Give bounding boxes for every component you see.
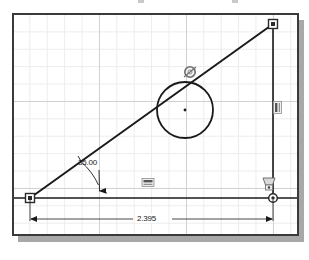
point-top-right[interactable] <box>269 20 278 29</box>
point-circle-center[interactable] <box>184 109 187 112</box>
sketch-root: 35.00 2.395 <box>0 0 309 260</box>
angle-leader-line <box>99 170 100 191</box>
horizontal-icon[interactable] <box>142 179 154 187</box>
angle-dimension-value[interactable]: 35.00 <box>78 158 97 167</box>
tangent-icon[interactable] <box>184 67 196 77</box>
vertical-icon[interactable] <box>274 102 282 114</box>
length-dimension-value[interactable]: 2.395 <box>135 214 158 223</box>
hypotenuse-line[interactable] <box>30 24 273 198</box>
